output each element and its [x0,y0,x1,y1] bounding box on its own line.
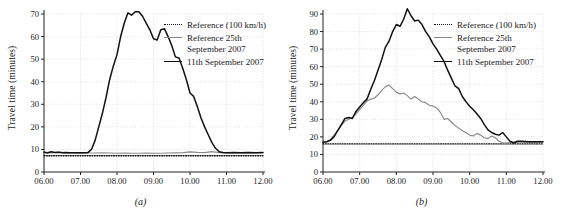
y-tick-label: 30 [30,99,39,109]
legend-item: Reference 25th September 2007 [163,33,266,54]
x-tick-label: 11.00 [497,176,516,186]
legend-b: Reference (100 km/h) Reference 25th Sept… [433,20,536,70]
y-tick-label: 10 [30,144,39,154]
legend-item: Reference 25th September 2007 [433,33,536,54]
y-tick-label: 40 [30,77,39,87]
y-tick-label: 70 [30,9,39,19]
x-tick-label: 12.00 [533,176,552,186]
legend-label: 11th September 2007 [457,57,534,68]
figure-travel-time-comparison: Travel time (minutes) 01020304050607006.… [0,0,563,222]
y-tick-label: 60 [30,32,39,42]
y-tick-label: 20 [30,122,39,132]
x-tick-label: 08.00 [387,176,406,186]
legend-item: 11th September 2007 [433,57,536,68]
legend-key-gray-line-icon [433,33,453,44]
legend-key-dotted-line-icon [433,20,453,31]
x-tick-label: 06.00 [313,176,332,186]
legend-item: 11th September 2007 [163,57,266,68]
legend-item: Reference (100 km/h) [163,20,266,31]
legend-label: 11th September 2007 [187,57,264,68]
legend-item: Reference (100 km/h) [433,20,536,31]
y-tick-label: 50 [30,54,39,64]
legend-key-black-line-icon [163,57,183,68]
x-tick-label: 12.00 [253,176,272,186]
y-tick-label: 90 [309,9,318,19]
x-tick-label: 08.00 [107,176,126,186]
x-tick-label: 06.00 [34,176,53,186]
panel-caption-a: (a) [0,196,281,207]
legend-label: Reference (100 km/h) [187,20,266,31]
x-tick-label: 09.00 [423,176,442,186]
legend-key-gray-line-icon [163,33,183,44]
y-tick-label: 40 [309,97,318,107]
legend-key-black-line-icon [433,57,453,68]
y-tick-label: 70 [309,44,318,54]
x-tick-label: 10.00 [180,176,199,186]
x-tick-label: 10.00 [460,176,479,186]
legend-label: Reference 25th September 2007 [187,33,246,54]
x-tick-label: 09.00 [144,176,163,186]
y-tick-label: 30 [309,114,318,124]
x-tick-label: 11.00 [217,176,236,186]
legend-key-dotted-line-icon [163,20,183,31]
y-tick-label: 50 [309,79,318,89]
y-tick-label: 20 [309,132,318,142]
chart-panel-a: Travel time (minutes) 01020304050607006.… [0,0,281,222]
y-tick-label: 60 [309,62,318,72]
y-tick-label: 10 [309,149,318,159]
panel-caption-b: (b) [281,196,562,207]
chart-panel-b: Travel time (minutes) 010203040506070809… [281,0,562,222]
legend-label: Reference (100 km/h) [457,20,536,31]
legend-a: Reference (100 km/h) Reference 25th Sept… [163,20,266,70]
x-tick-label: 07.00 [350,176,369,186]
y-tick-label: 80 [309,27,318,37]
x-tick-label: 07.00 [71,176,90,186]
legend-label: Reference 25th September 2007 [457,33,516,54]
